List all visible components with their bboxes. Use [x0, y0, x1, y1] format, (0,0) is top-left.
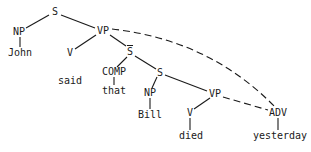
syntax-tree-diagram: SNPJohnVPVsaidSCOMPthatSNPBillVPVdiedADV…	[0, 0, 311, 152]
edge-vp2-v2	[194, 98, 210, 109]
edge-s1-np1	[26, 15, 49, 28]
edge-sbar-s2	[135, 56, 156, 69]
node-yesterday: yesterday	[253, 131, 307, 141]
node-bill: Bill	[138, 110, 162, 120]
node-vp1: VP	[97, 26, 109, 36]
node-vp2: VP	[209, 89, 221, 99]
node-np2: NP	[144, 88, 156, 98]
edge-s2-vp2	[165, 75, 207, 91]
edge-vp2-adv	[223, 97, 268, 110]
edge-vp1-sbar	[110, 35, 126, 46]
node-v2: V	[187, 108, 193, 118]
node-v1: V	[67, 48, 73, 58]
node-s2: S	[157, 68, 163, 78]
node-that: that	[102, 86, 126, 96]
edge-vp1-adv	[112, 29, 275, 107]
node-john: John	[8, 48, 32, 58]
node-comp: COMP	[102, 67, 126, 77]
node-said: said	[58, 76, 82, 86]
node-died: died	[179, 131, 203, 141]
edge-s1-vp1	[61, 15, 95, 28]
node-sbar: S	[127, 47, 133, 57]
node-adv: ADV	[269, 108, 287, 118]
node-s1: S	[52, 7, 58, 17]
node-np1: NP	[13, 27, 25, 37]
edge-vp1-v1	[75, 35, 96, 49]
